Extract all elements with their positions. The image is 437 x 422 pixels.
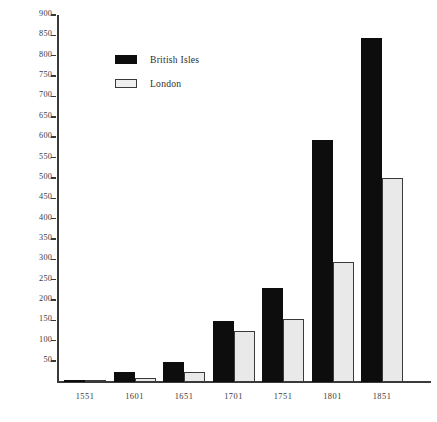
bar-london-1751: [283, 319, 304, 382]
bar-london-1551: [85, 380, 106, 382]
y-tick-mark: [51, 136, 56, 137]
y-tick-mark: [51, 116, 56, 117]
x-tick-label-1851: 1851: [353, 392, 411, 401]
bar-british-isles-1601: [114, 372, 135, 382]
y-tick-mark: [51, 259, 56, 260]
legend-swatch-icon-london: [115, 79, 137, 88]
legend-label-british-isles: British Isles: [150, 54, 199, 65]
y-tick-mark: [51, 14, 56, 15]
legend-label-london: London: [150, 78, 181, 89]
bar-group-1701: [213, 15, 255, 382]
legend-swatch-icon-british-isles: [115, 55, 137, 64]
bar-london-1601: [135, 378, 156, 382]
plot-area: [58, 15, 431, 382]
y-tick-mark: [51, 320, 56, 321]
bar-british-isles-1801: [312, 140, 333, 382]
bar-london-1801: [333, 262, 354, 382]
bar-london-1701: [234, 331, 255, 382]
bar-london-1651: [184, 372, 205, 382]
y-tick-mark: [51, 96, 56, 97]
bar-british-isles-1851: [361, 38, 382, 382]
y-tick-mark: [51, 198, 56, 199]
y-tick-mark: [51, 35, 56, 36]
bar-group-1851: [361, 15, 403, 382]
bar-group-1801: [312, 15, 354, 382]
y-tick-mark: [51, 299, 56, 300]
bar-london-1851: [382, 178, 403, 382]
legend-item-british-isles: British Isles: [115, 50, 199, 68]
legend-item-london: London: [115, 74, 199, 92]
bar-group-1751: [262, 15, 304, 382]
y-tick-mark: [51, 279, 56, 280]
y-tick-mark: [51, 177, 56, 178]
bar-group-1551: [64, 15, 106, 382]
y-tick-mark: [51, 340, 56, 341]
y-tick-mark: [51, 238, 56, 239]
bar-british-isles-1551: [64, 380, 85, 382]
y-tick-mark: [51, 218, 56, 219]
bar-british-isles-1701: [213, 321, 234, 382]
bar-chart: 9008508007507006506005505004504003503002…: [0, 0, 437, 422]
bar-british-isles-1651: [163, 362, 184, 382]
y-tick-mark: [51, 157, 56, 158]
y-tick-mark: [51, 75, 56, 76]
legend: British Isles London: [115, 50, 199, 98]
bar-british-isles-1751: [262, 288, 283, 382]
y-tick-mark: [51, 55, 56, 56]
y-tick-mark: [51, 360, 56, 361]
